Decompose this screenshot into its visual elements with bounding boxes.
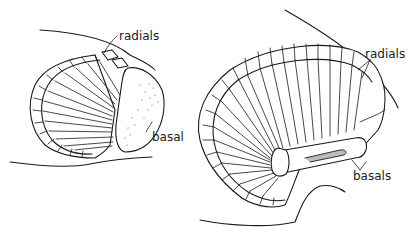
right-basals-label: basals bbox=[353, 169, 391, 183]
fin-skeleton-diagram: radials basal bbox=[0, 0, 409, 236]
left-radial-top-1 bbox=[102, 50, 118, 60]
right-fin-drawing bbox=[198, 10, 398, 226]
body-outline-bottom-left bbox=[10, 157, 152, 166]
left-radials-label: radials bbox=[119, 29, 159, 43]
right-basal-head bbox=[271, 148, 289, 176]
left-fin-drawing bbox=[10, 30, 164, 166]
left-radial-top-2 bbox=[112, 58, 128, 68]
left-basal-label: basal bbox=[152, 130, 184, 144]
right-radials-label: radials bbox=[365, 47, 405, 61]
